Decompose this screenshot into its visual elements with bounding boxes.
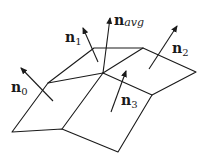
label-navg: navg	[114, 12, 144, 28]
label-n0: n0	[11, 79, 28, 97]
arrow-n1	[83, 28, 98, 62]
mesh-drawing	[0, 0, 205, 157]
label-n2: n2	[172, 40, 189, 58]
label-n1: n1	[65, 29, 82, 47]
mesh-normal-diagram: n0 n1 navg n2 n3	[0, 0, 205, 157]
normal-arrows	[21, 18, 177, 112]
arrow-navg	[103, 18, 110, 73]
label-n3: n3	[121, 92, 138, 110]
